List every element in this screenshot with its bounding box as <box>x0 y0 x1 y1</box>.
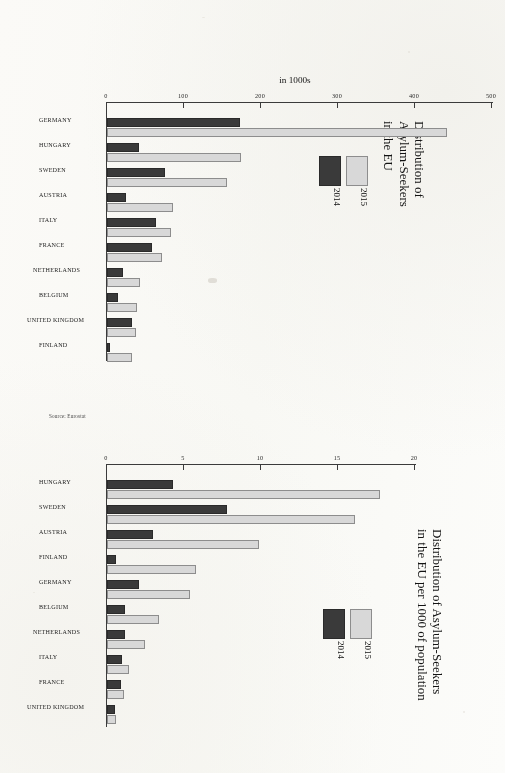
bar-2015 <box>107 640 145 649</box>
category-label: GERMANY <box>39 579 99 601</box>
bar-2015 <box>107 128 447 137</box>
axis-tick <box>183 103 184 108</box>
axis-tick <box>183 465 184 470</box>
bar-2014 <box>107 118 240 127</box>
bar-2015 <box>107 715 116 724</box>
bar-2014 <box>107 168 165 177</box>
bar-2015 <box>107 178 227 187</box>
category-label: SWEDEN <box>39 167 99 189</box>
axis-tick <box>337 103 338 108</box>
axis-tick <box>337 465 338 470</box>
bar-2014 <box>107 268 123 277</box>
axis-tick-label: 5 <box>176 454 190 461</box>
axis-tick-label: 0 <box>98 92 114 99</box>
category-label: AUSTRIA <box>39 192 99 214</box>
axis-tick <box>414 103 415 108</box>
value-axis-line <box>106 102 493 103</box>
category-label: FINLAND <box>39 342 99 364</box>
bar-2014 <box>107 318 132 327</box>
bar-2015 <box>107 153 241 162</box>
bar-2015 <box>107 665 129 674</box>
bar-2014 <box>107 243 152 252</box>
scan-speck <box>202 17 205 18</box>
category-label: UNITED KINGDOM <box>27 704 99 726</box>
category-label: SWEDEN <box>39 504 99 526</box>
axis-tick-label: 10 <box>253 454 267 461</box>
chart-absolute: Distribution of Asylum-Seekers in the EU… <box>0 43 505 373</box>
axis-tick <box>414 465 415 470</box>
axis-tick <box>260 465 261 470</box>
category-label: FRANCE <box>39 679 99 701</box>
bar-2014 <box>107 143 139 152</box>
chart-per-capita: Distribution of Asylum-Seekers in the EU… <box>0 433 505 753</box>
bar-2014 <box>107 705 115 714</box>
category-label: NETHERLANDS <box>33 267 99 289</box>
axis-tick <box>491 103 492 108</box>
bar-2014 <box>107 343 110 352</box>
value-axis-title: in 1000s <box>260 75 330 85</box>
axis-tick-label: 200 <box>252 92 268 99</box>
category-label: ITALY <box>39 217 99 239</box>
bar-2014 <box>107 480 173 489</box>
category-label: AUSTRIA <box>39 529 99 551</box>
bar-2014 <box>107 605 125 614</box>
axis-tick-label: 15 <box>330 454 344 461</box>
category-label: HUNGARY <box>39 142 99 164</box>
bar-2014 <box>107 580 139 589</box>
bar-2014 <box>107 193 126 202</box>
bar-2014 <box>107 218 156 227</box>
category-label: FRANCE <box>39 242 99 264</box>
axis-tick-label: 0 <box>99 454 113 461</box>
plot-area-absolute: 0 100 200 300 400 500 in 1000s GERMANY H… <box>0 43 505 373</box>
axis-tick <box>106 103 107 108</box>
category-label: HUNGARY <box>39 479 99 501</box>
bar-2015 <box>107 353 132 362</box>
axis-tick-label: 500 <box>483 92 499 99</box>
category-label: UNITED KINGDOM <box>27 317 99 339</box>
axis-tick-label: 300 <box>329 92 345 99</box>
bar-2014 <box>107 530 153 539</box>
category-label: BELGIUM <box>39 604 99 626</box>
bar-2015 <box>107 615 159 624</box>
bar-2014 <box>107 655 122 664</box>
bar-2015 <box>107 228 171 237</box>
axis-tick <box>106 465 107 470</box>
bar-2014 <box>107 630 125 639</box>
bar-2015 <box>107 253 162 262</box>
scanned-page: Distribution of Asylum-Seekers in the EU… <box>0 0 505 773</box>
bar-2015 <box>107 590 190 599</box>
category-label: GERMANY <box>39 117 99 139</box>
bar-2015 <box>107 278 140 287</box>
axis-tick-label: 100 <box>175 92 191 99</box>
bar-2015 <box>107 303 137 312</box>
bar-2014 <box>107 505 227 514</box>
bar-2015 <box>107 328 136 337</box>
category-label: NETHERLANDS <box>33 629 99 651</box>
bar-2015 <box>107 515 355 524</box>
category-label: FINLAND <box>39 554 99 576</box>
bar-2015 <box>107 690 124 699</box>
bar-2015 <box>107 540 259 549</box>
bar-2015 <box>107 565 196 574</box>
axis-tick-label: 400 <box>406 92 422 99</box>
plot-area-per-capita: 0 5 10 15 20 HUNGARY SWEDEN AUSTRIA FINL… <box>0 433 505 753</box>
value-axis-line <box>106 464 416 465</box>
bar-2014 <box>107 680 121 689</box>
axis-tick-label: 20 <box>407 454 421 461</box>
source-note: Source: Eurostat <box>49 413 105 419</box>
axis-tick <box>260 103 261 108</box>
category-label: BELGIUM <box>39 292 99 314</box>
bar-2015 <box>107 490 380 499</box>
bar-2015 <box>107 203 173 212</box>
category-label: ITALY <box>39 654 99 676</box>
bar-2014 <box>107 555 116 564</box>
bar-2014 <box>107 293 118 302</box>
